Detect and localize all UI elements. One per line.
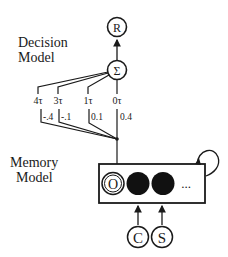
input-node-c: C [128,227,149,248]
delay-label-4tau: 4τ [33,95,42,106]
junction-dot [115,137,119,141]
weight-4tau: -.4 [43,112,54,122]
response-node-label: R [113,21,121,35]
input-node-c-label: C [133,230,143,246]
decision-memory-diagram: Decision Model R Σ 4τ 3τ 1τ 0τ -.4 -.1 0… [0,0,228,257]
sum-node: Σ [108,61,127,80]
response-node: R [108,18,127,37]
memory-model-label-line2: Model [16,170,53,185]
memory-ellipsis: ... [181,176,191,191]
memory-slot-output-label: O [108,177,118,192]
delay-tap-lines [38,72,117,94]
delay-label-1tau: 1τ [83,95,92,106]
weight-1tau: 0.1 [91,112,103,122]
input-node-s: S [152,227,173,248]
memory-model-label-line1: Memory [10,155,58,170]
input-node-s-label: S [158,230,166,246]
decision-model-label-line1: Decision [18,35,68,50]
weight-0tau: 0.4 [120,112,132,122]
decision-model-label-line2: Model [18,50,55,65]
sum-node-label: Σ [114,64,121,78]
weight-3tau: -.1 [61,112,72,122]
delay-label-3tau: 3τ [53,95,62,106]
delay-label-0tau: 0τ [112,95,121,106]
memory-slot-filled-1 [127,172,150,195]
memory-slot-output: O [102,173,124,195]
memory-slot-filled-2 [152,172,175,195]
